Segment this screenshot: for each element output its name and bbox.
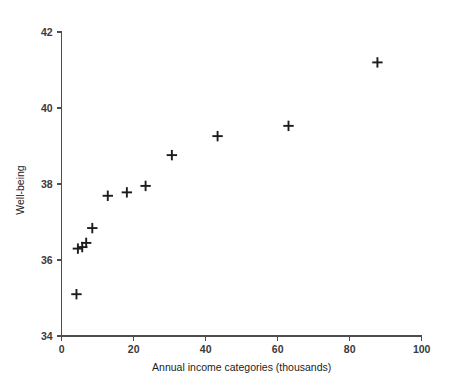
y-tick-label: 38 — [41, 178, 53, 190]
data-point — [140, 181, 150, 191]
x-tick-label: 20 — [128, 343, 140, 355]
x-axis-ticks: 020406080100 — [59, 336, 431, 355]
data-point — [212, 131, 222, 141]
x-tick-label: 60 — [272, 343, 284, 355]
y-tick-label: 36 — [41, 254, 53, 266]
y-tick-label: 34 — [41, 330, 53, 342]
y-tick-label: 40 — [41, 102, 53, 114]
data-point — [103, 191, 113, 201]
data-point — [372, 57, 382, 67]
y-axis-ticks: 3436384042 — [41, 26, 62, 342]
data-markers — [71, 57, 382, 299]
data-point — [167, 150, 177, 160]
x-tick-label: 0 — [59, 343, 65, 355]
data-point — [122, 187, 132, 197]
scatter-plot-figure: 3436384042 020406080100 Annual income ca… — [0, 0, 453, 390]
plot-canvas: 3436384042 020406080100 Annual income ca… — [0, 0, 453, 390]
data-point — [71, 289, 81, 299]
x-tick-label: 100 — [413, 343, 431, 355]
y-axis-title: Well-being — [14, 165, 26, 215]
y-tick-label: 42 — [41, 26, 53, 38]
data-point — [87, 223, 97, 233]
x-tick-label: 80 — [344, 343, 356, 355]
x-axis-title: Annual income categories (thousands) — [152, 361, 331, 373]
data-point — [283, 121, 293, 131]
x-tick-label: 40 — [200, 343, 212, 355]
